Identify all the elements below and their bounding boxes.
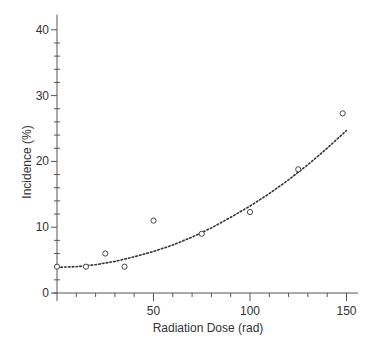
data-point [199, 231, 204, 236]
data-point [151, 218, 156, 223]
data-point [340, 111, 345, 116]
chart: 01020304050100150 Radiation Dose (rad) I… [0, 0, 376, 353]
data-point [103, 251, 108, 256]
y-axis-label: Incidence (%) [20, 125, 34, 198]
data-point [83, 264, 88, 269]
axes: 01020304050100150 [36, 15, 358, 318]
x-axis-label: Radiation Dose (rad) [153, 321, 264, 335]
y-tick-label: 30 [36, 89, 50, 103]
y-tick-label: 40 [36, 23, 50, 37]
x-tick-label: 100 [240, 304, 260, 318]
fitted-curve-path [57, 131, 347, 268]
y-tick-label: 20 [36, 154, 50, 168]
data-point [296, 167, 301, 172]
data-point [54, 264, 59, 269]
data-point [122, 264, 127, 269]
y-tick-label: 10 [36, 220, 50, 234]
fitted-curve [57, 131, 347, 268]
data-point [247, 209, 252, 214]
x-tick-label: 150 [336, 304, 356, 318]
data-points [54, 111, 345, 270]
x-tick-label: 50 [147, 304, 161, 318]
y-tick-label: 0 [42, 286, 49, 300]
